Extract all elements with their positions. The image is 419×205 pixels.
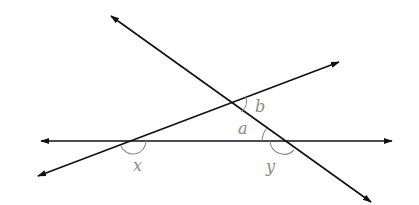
label-b: b bbox=[255, 97, 265, 116]
label-x: x bbox=[133, 156, 142, 175]
angle-y-arc bbox=[270, 141, 294, 154]
falling-line bbox=[111, 16, 371, 202]
label-a: a bbox=[238, 119, 248, 138]
label-y: y bbox=[265, 157, 276, 176]
rising-line bbox=[38, 62, 339, 176]
geometry-diagram: b a x y bbox=[0, 0, 419, 205]
angle-a-arc bbox=[262, 128, 267, 141]
